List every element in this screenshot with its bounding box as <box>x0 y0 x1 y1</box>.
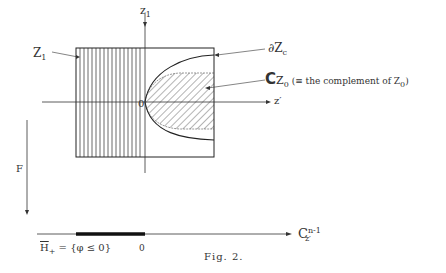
diagram-canvas <box>0 0 446 273</box>
z1-leader-arrowhead <box>76 55 80 59</box>
complement-note: (≡ the complement of Z <box>289 76 400 86</box>
boundary-zc-label: ∂Zc <box>268 42 287 54</box>
z1-axis-text: z <box>140 4 146 17</box>
boundary-text: ∂Z <box>268 41 283 55</box>
z1-region-label: Z1 <box>33 47 46 59</box>
base-zero-label: 0 <box>139 244 145 253</box>
z1-subscript: 1 <box>41 53 46 62</box>
vertical-axis-arrowhead <box>143 22 147 27</box>
h-plus-definition: = {φ ≤ 0} <box>55 242 111 253</box>
figure-caption: Fig. 2. <box>204 252 243 262</box>
h-plus-subscript: + <box>49 247 56 256</box>
vertical-axis-label: z1 <box>140 5 151 16</box>
z1-axis-subscript: 1 <box>146 10 151 19</box>
boundary-leader-arrowhead <box>214 53 219 57</box>
complement-note-close: ) <box>405 76 409 86</box>
complement-symbol: C <box>265 70 276 88</box>
base-line-arrowhead <box>286 232 292 236</box>
complement-subscript: 0 <box>284 80 289 89</box>
map-f-label: F <box>16 164 23 174</box>
cn1-subscript: z′ <box>305 234 311 243</box>
h-plus-label: H+ = {φ ≤ 0} <box>40 243 111 253</box>
horizontal-axis-label: z′ <box>274 96 282 106</box>
complement-text: Z <box>276 74 284 87</box>
h-plus-text: H <box>40 242 49 253</box>
z1-region-stripes <box>80 48 140 157</box>
complement-z0-label: CZ0 (≡ the complement of Z0) <box>265 72 409 87</box>
origin-label: 0 <box>138 99 144 109</box>
boundary-subscript: c <box>283 48 287 57</box>
complement-note-subscript: 0 <box>400 80 405 89</box>
cn1-space-label: Cn-1z′ <box>298 227 311 240</box>
map-f-arrowhead <box>25 210 29 215</box>
horizontal-axis-arrowhead <box>266 100 271 104</box>
